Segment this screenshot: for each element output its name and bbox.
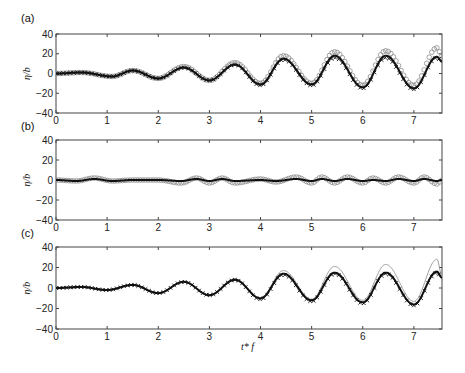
x-tick-label: 3: [207, 222, 213, 233]
y-tick-label: 0: [47, 283, 53, 294]
y-tick-label: 20: [42, 262, 54, 273]
plot-frame: [56, 247, 442, 329]
x-tick-label: 2: [155, 331, 161, 342]
series-thin-gray-line: [56, 259, 442, 301]
x-tick-label: 1: [104, 115, 110, 126]
x-tick-label: 5: [309, 331, 315, 342]
x-tick-label: 6: [360, 115, 366, 126]
x-tick-label: 7: [411, 222, 417, 233]
x-tick-label: 6: [360, 222, 366, 233]
x-tick-label: 4: [258, 222, 264, 233]
y-tick-label: 40: [42, 135, 54, 146]
y-tick-label: −20: [36, 303, 53, 314]
y-tick-label: −40: [36, 324, 53, 335]
x-tick-label: 0: [53, 331, 59, 342]
x-tick-label: 4: [258, 331, 264, 342]
x-tick-label: 6: [360, 331, 366, 342]
y-tick-label: −40: [36, 108, 53, 119]
x-tick-label: 0: [53, 222, 59, 233]
x-tick-label: 3: [207, 331, 213, 342]
x-axis-label: t* f: [241, 341, 254, 352]
plot-frame: [56, 34, 442, 113]
series-line: [56, 56, 442, 89]
x-tick-label: 0: [53, 115, 59, 126]
y-axis-label: η/b: [21, 282, 32, 295]
circle-marker: [427, 55, 432, 60]
x-tick-label: 1: [104, 222, 110, 233]
y-tick-label: 40: [42, 29, 54, 40]
x-tick-label: 5: [309, 115, 315, 126]
x-tick-label: 2: [155, 222, 161, 233]
y-axis-label: η/b: [21, 67, 32, 80]
y-tick-label: −40: [36, 215, 53, 226]
y-tick-label: 0: [47, 175, 53, 186]
y-tick-label: −20: [36, 88, 53, 99]
chart-panel-c: 0123456740200−20−40η/b: [21, 242, 442, 343]
x-tick-label: 3: [207, 115, 213, 126]
series-line: [56, 272, 442, 305]
y-tick-label: 20: [42, 48, 54, 59]
chart-panel-b: 0123456740200−20−40η/b: [21, 135, 444, 234]
x-tick-label: 2: [155, 115, 161, 126]
figure-canvas: 0123456740200−20−40η/b0123456740200−20−4…: [0, 0, 465, 373]
x-tick-label: 4: [258, 115, 264, 126]
x-tick-label: 1: [104, 331, 110, 342]
y-axis-label: η/b: [21, 174, 32, 187]
y-tick-label: −20: [36, 195, 53, 206]
chart-panel-a: 0123456740200−20−40η/b: [21, 29, 444, 127]
x-tick-label: 5: [309, 222, 315, 233]
x-tick-label: 7: [411, 331, 417, 342]
y-tick-label: 20: [42, 155, 54, 166]
x-tick-label: 7: [411, 115, 417, 126]
y-tick-label: 40: [42, 242, 54, 253]
y-tick-label: 0: [47, 68, 53, 79]
